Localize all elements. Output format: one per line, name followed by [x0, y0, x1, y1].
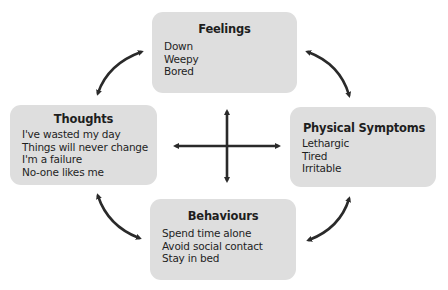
physical-symptoms-item: Lethargic — [302, 137, 436, 150]
physical-symptoms-item: Irritable — [302, 162, 436, 175]
behaviours-box: Behaviours Spend time alone Avoid social… — [150, 199, 296, 280]
thoughts-item: I've wasted my day — [22, 128, 157, 141]
physical-symptoms-item: Tired — [302, 150, 436, 163]
feelings-title: Feelings — [164, 22, 297, 36]
behaviours-title: Behaviours — [162, 209, 296, 223]
arrow-behaviours-physical — [309, 199, 349, 240]
arrow-feelings-physical — [308, 52, 349, 95]
behaviours-item: Stay in bed — [162, 252, 296, 265]
feelings-item: Weepy — [164, 53, 297, 66]
behaviours-item: Avoid social contact — [162, 240, 296, 253]
arrow-thoughts-feelings — [98, 52, 141, 93]
physical-symptoms-title: Physical Symptoms — [302, 121, 436, 135]
thoughts-box: Thoughts I've wasted my day Things will … — [10, 105, 157, 185]
arrow-thoughts-behaviours — [98, 196, 139, 238]
thoughts-title: Thoughts — [22, 112, 157, 126]
feelings-box: Feelings Down Weepy Bored — [152, 12, 297, 93]
behaviours-item: Spend time alone — [162, 227, 296, 240]
thoughts-item: No-one likes me — [22, 166, 157, 179]
feelings-item: Down — [164, 40, 297, 53]
thoughts-list: I've wasted my day Things will never cha… — [22, 128, 157, 178]
physical-symptoms-list: Lethargic Tired Irritable — [302, 137, 436, 175]
thoughts-item: I'm a failure — [22, 153, 157, 166]
feelings-item: Bored — [164, 65, 297, 78]
behaviours-list: Spend time alone Avoid social contact St… — [162, 227, 296, 265]
thoughts-item: Things will never change — [22, 141, 157, 154]
physical-symptoms-box: Physical Symptoms Lethargic Tired Irrita… — [290, 107, 436, 187]
feelings-list: Down Weepy Bored — [164, 40, 297, 78]
